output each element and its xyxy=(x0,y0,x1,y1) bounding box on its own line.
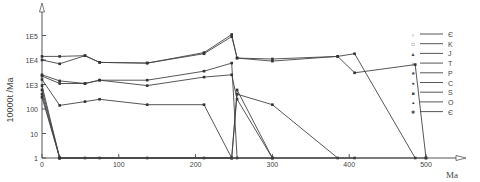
data-point xyxy=(146,62,149,65)
x-tick-label: 400 xyxy=(343,161,355,168)
data-point xyxy=(271,103,274,106)
y-tick-label: 10 xyxy=(30,131,38,138)
x-tick-label: 300 xyxy=(267,161,279,168)
legend-label: O xyxy=(448,99,454,106)
data-point xyxy=(58,62,61,65)
data-point xyxy=(41,78,44,81)
x-axis-label: Ma xyxy=(446,170,458,180)
data-point xyxy=(98,79,101,82)
series-line xyxy=(41,73,274,159)
legend-item: ▴O xyxy=(412,99,455,106)
legend-marker-icon: ■ xyxy=(411,90,414,96)
legend-label: K xyxy=(448,41,453,48)
data-point xyxy=(203,70,206,73)
data-point xyxy=(146,79,149,82)
y-axis-arrow-icon xyxy=(40,3,45,12)
series-group xyxy=(41,33,428,159)
legend-marker-icon: ○ xyxy=(411,32,414,38)
series-line xyxy=(41,78,233,159)
data-point xyxy=(230,35,233,38)
data-point xyxy=(41,84,44,87)
legend-marker-icon: ● xyxy=(411,80,414,86)
x-axis-arrow-icon xyxy=(456,156,466,161)
data-point xyxy=(84,82,87,85)
series-line xyxy=(41,33,417,159)
data-point xyxy=(41,89,44,92)
data-point xyxy=(230,62,233,65)
data-point xyxy=(203,76,206,79)
x-ticks: 0100200300400500 xyxy=(40,154,432,168)
series-line xyxy=(41,84,339,159)
y-tick-label: 1E4 xyxy=(26,57,39,64)
data-point xyxy=(336,55,339,58)
x-tick-label: 200 xyxy=(190,161,202,168)
data-point xyxy=(58,55,61,58)
legend-label: P xyxy=(448,70,453,77)
data-point xyxy=(41,59,44,62)
data-point xyxy=(98,61,101,64)
data-point xyxy=(84,54,87,57)
data-point xyxy=(41,75,44,78)
legend-marker-icon: □ xyxy=(411,41,414,47)
x-tick-label: 0 xyxy=(40,161,44,168)
legend-marker-icon: ★ xyxy=(411,70,416,76)
data-point xyxy=(146,84,149,87)
y-tick-label: 1E5 xyxy=(26,33,39,40)
legend-item: ▲J xyxy=(411,50,452,57)
data-point xyxy=(98,98,101,101)
legend-label: J xyxy=(448,50,452,57)
data-point xyxy=(414,63,417,66)
data-point xyxy=(203,103,206,106)
data-point xyxy=(58,157,61,160)
data-point xyxy=(353,52,356,55)
legend-marker-icon: ▴ xyxy=(412,99,415,105)
data-point xyxy=(203,52,206,55)
y-tick-label: 1 xyxy=(34,155,38,162)
legend-marker-icon: ▲ xyxy=(411,51,416,57)
legend-item: ○Є xyxy=(411,31,453,38)
legend-item: □K xyxy=(411,41,453,48)
data-point xyxy=(353,72,356,75)
data-point xyxy=(58,82,61,85)
x-tick-label: 100 xyxy=(113,161,125,168)
series-line xyxy=(41,89,274,160)
data-point xyxy=(58,80,61,83)
legend-item: ■S xyxy=(411,89,453,96)
legend-label: Є xyxy=(448,31,453,38)
chart: 1101001E31E41E5 0100200300400500 10000t … xyxy=(0,0,480,182)
axes xyxy=(40,3,467,161)
series-line xyxy=(41,93,356,159)
data-point xyxy=(41,93,44,96)
y-tick-label: 1E3 xyxy=(26,82,39,89)
legend-item: ★P xyxy=(411,70,453,77)
data-point xyxy=(41,96,44,99)
legend-label: S xyxy=(448,89,453,96)
legend-label: Є xyxy=(448,109,453,116)
legend-marker-icon: ✱ xyxy=(411,109,415,115)
data-point xyxy=(236,89,239,92)
legend: ○Є□K▲J◊T★P●C■S▴O✱Є xyxy=(411,31,454,116)
x-tick-label: 500 xyxy=(420,161,432,168)
data-point xyxy=(41,55,44,58)
data-point xyxy=(146,103,149,106)
legend-label: T xyxy=(448,60,453,67)
legend-item: ◊T xyxy=(412,60,453,67)
data-point xyxy=(236,57,239,60)
data-point xyxy=(271,60,274,63)
data-point xyxy=(58,104,61,107)
data-point xyxy=(425,157,428,160)
legend-item: ✱Є xyxy=(411,109,453,116)
legend-label: C xyxy=(448,80,453,87)
y-axis-label: 10000t /Ma xyxy=(5,77,15,122)
data-point xyxy=(84,100,87,103)
data-point xyxy=(230,73,233,76)
y-tick-label: 100 xyxy=(26,106,38,113)
